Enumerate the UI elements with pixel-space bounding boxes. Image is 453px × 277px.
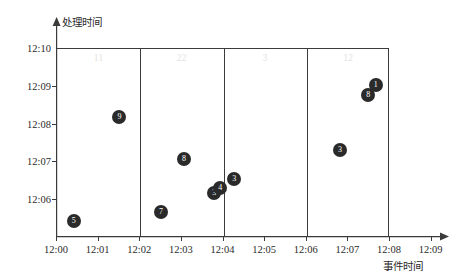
data-point-marker[interactable]: 7: [154, 205, 168, 219]
x-tick-mark: [181, 237, 182, 241]
x-tick-mark: [223, 237, 224, 241]
data-point-marker[interactable]: 5: [67, 214, 81, 228]
x-tick-label: 12:06: [294, 244, 318, 255]
y-tick-label: 12:06: [27, 194, 51, 205]
y-tick-mark: [52, 161, 56, 162]
section-label-3: 3: [263, 53, 268, 63]
x-tick-label: 12:08: [377, 244, 401, 255]
plot-area: 11223125978343381: [56, 48, 389, 237]
y-tick-label: 12:09: [27, 80, 51, 91]
x-tick-label: 12:07: [335, 244, 359, 255]
y-tick-mark: [52, 86, 56, 87]
x-tick-mark: [56, 237, 57, 241]
data-point-marker[interactable]: 9: [112, 110, 126, 124]
data-point-marker[interactable]: 3: [333, 143, 347, 157]
x-tick-mark: [306, 237, 307, 241]
y-tick-label: 12:08: [27, 118, 51, 129]
x-tick-mark: [98, 237, 99, 241]
section-label-2: 22: [177, 53, 187, 63]
scatter-chart: 处理时间 事件时间 11223125978343381 12:0612:0712…: [0, 0, 453, 277]
x-tick-mark: [347, 237, 348, 241]
x-tick-label: 12:02: [127, 244, 151, 255]
y-tick-label: 12:07: [27, 156, 51, 167]
section-label-4: 12: [343, 53, 353, 63]
x-tick-label: 12:04: [211, 244, 235, 255]
x-tick-label: 12:01: [86, 244, 110, 255]
data-point-marker[interactable]: 4: [213, 181, 227, 195]
x-tick-label: 12:05: [252, 244, 276, 255]
x-tick-mark: [389, 237, 390, 241]
x-tick-mark: [139, 237, 140, 241]
x-tick-mark: [264, 237, 265, 241]
x-tick-label: 12:00: [44, 244, 68, 255]
section-divider-3: [307, 49, 308, 237]
y-tick-label: 12:10: [27, 43, 51, 54]
y-tick-mark: [52, 199, 56, 200]
section-divider-1: [140, 49, 141, 237]
data-point-marker[interactable]: 1: [369, 78, 383, 92]
section-label-1: 11: [94, 53, 104, 63]
data-point-marker[interactable]: 8: [177, 152, 191, 166]
section-divider-2: [224, 49, 225, 237]
x-axis: 12:0012:0112:0212:0312:0412:0512:0612:07…: [56, 237, 451, 267]
y-axis-title: 处理时间: [62, 14, 102, 29]
y-tick-mark: [52, 124, 56, 125]
x-tick-label: 12:09: [419, 244, 443, 255]
data-point-marker[interactable]: 3: [227, 172, 241, 186]
x-tick-mark: [431, 237, 432, 241]
x-tick-label: 12:03: [169, 244, 193, 255]
